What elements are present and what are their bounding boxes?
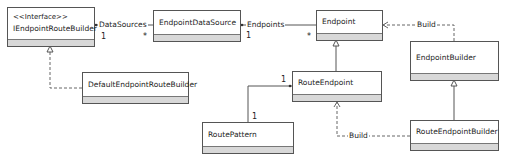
class-iendpointroutebuilder[interactable]: <<Interface>> IEndpointRouteBuilder [7, 7, 95, 47]
class-compartment [293, 94, 381, 101]
class-endpointdatasource[interactable]: EndpointDataSource [153, 10, 241, 42]
label-datasources: DataSources [98, 20, 148, 29]
class-name: RouteEndpointBuilder [416, 127, 498, 137]
class-name: Endpoint [322, 17, 355, 27]
class-compartment [83, 96, 188, 103]
class-routeendpointbuilder[interactable]: RouteEndpointBuilder [410, 120, 499, 151]
class-compartment [8, 39, 94, 46]
class-name: RouteEndpoint [298, 78, 353, 88]
class-compartment [154, 34, 240, 41]
class-name: IEndpointRouteBuilder [13, 24, 89, 34]
multiplicity-many: * [307, 32, 311, 41]
multiplicity-many: * [143, 32, 147, 41]
class-name: RoutePattern [208, 130, 257, 140]
multiplicity-one: 1 [246, 31, 251, 40]
realization-line [50, 50, 82, 88]
label-build-bottom: Build [348, 131, 369, 140]
class-name: EndpointDataSource [159, 18, 236, 28]
label-endpoints: Endpoints [246, 20, 285, 29]
stereotype-label: <<Interface>> [13, 12, 89, 22]
class-routepattern[interactable]: RoutePattern [202, 122, 294, 154]
multiplicity-one: 1 [101, 32, 106, 41]
class-routeendpoint[interactable]: RouteEndpoint [292, 71, 382, 102]
class-name: DefaultEndpointRouteBuilder [88, 80, 197, 90]
class-compartment [317, 33, 382, 40]
label-build-top: Build [416, 20, 437, 29]
multiplicity-routepattern: 1 [252, 112, 257, 121]
class-name: EndpointBuilder [416, 53, 476, 63]
class-compartment [411, 143, 498, 150]
class-compartment [203, 146, 293, 153]
class-defaultendpointroutebuilder[interactable]: DefaultEndpointRouteBuilder [82, 72, 189, 104]
class-endpoint[interactable]: Endpoint [316, 10, 383, 41]
multiplicity-routeendpoint: 1 [281, 75, 286, 84]
class-compartment [411, 73, 498, 80]
uml-diagram: <<Interface>> IEndpointRouteBuilder Endp… [0, 0, 505, 162]
class-endpointbuilder[interactable]: EndpointBuilder [410, 41, 499, 81]
